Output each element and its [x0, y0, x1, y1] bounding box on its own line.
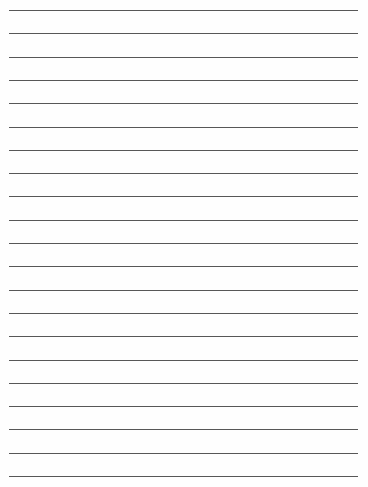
ruled-line: [9, 406, 358, 407]
ruled-line: [9, 127, 358, 128]
ruled-line: [9, 220, 358, 221]
ruled-line: [9, 196, 358, 197]
ruled-line: [9, 429, 358, 430]
ruled-line: [9, 173, 358, 174]
ruled-line: [9, 336, 358, 337]
ruled-line: [9, 383, 358, 384]
ruled-line: [9, 103, 358, 104]
ruled-line: [9, 453, 358, 454]
lined-paper-sheet: [0, 0, 368, 487]
ruled-line: [9, 313, 358, 314]
ruled-line: [9, 476, 358, 477]
ruled-line: [9, 33, 358, 34]
ruled-line: [9, 290, 358, 291]
ruled-line: [9, 266, 358, 267]
ruled-line: [9, 360, 358, 361]
ruled-line: [9, 57, 358, 58]
ruled-line: [9, 10, 358, 11]
ruled-line: [9, 150, 358, 151]
ruled-line: [9, 80, 358, 81]
ruled-line: [9, 243, 358, 244]
